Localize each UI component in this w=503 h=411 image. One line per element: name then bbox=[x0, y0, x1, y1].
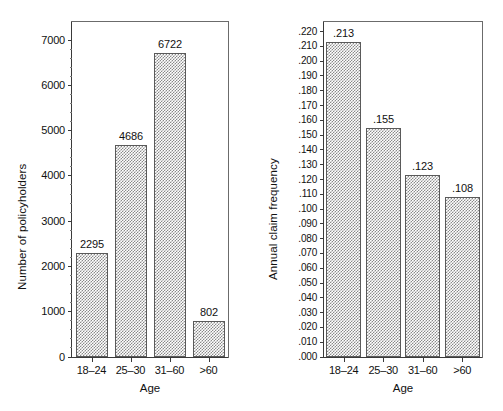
x-axis-title-right: Age bbox=[324, 383, 482, 395]
x-axis-tick-mark bbox=[92, 358, 93, 362]
chart-panel-claim-frequency: Annual claim frequency .000.010.020.030.… bbox=[251, 0, 503, 411]
x-axis-tick-mark bbox=[383, 358, 384, 362]
x-axis-ticks-right: 18–2425–3031–60>60 bbox=[251, 0, 503, 411]
x-axis-tick-mark bbox=[462, 358, 463, 362]
x-axis-tick-mark bbox=[423, 358, 424, 362]
x-axis-tick-mark bbox=[209, 358, 210, 362]
x-axis-tick-mark bbox=[170, 358, 171, 362]
x-axis-tick-label: >60 bbox=[432, 365, 492, 376]
x-axis-tick-mark bbox=[344, 358, 345, 362]
chart-panel-policyholders: Number of policyholders 0100020003000400… bbox=[0, 0, 252, 411]
x-axis-title-left: Age bbox=[72, 383, 228, 395]
x-axis-tick-label: >60 bbox=[179, 365, 239, 376]
x-axis-ticks-left: 18–2425–3031–60>60 bbox=[0, 0, 252, 411]
x-axis-tick-mark bbox=[131, 358, 132, 362]
